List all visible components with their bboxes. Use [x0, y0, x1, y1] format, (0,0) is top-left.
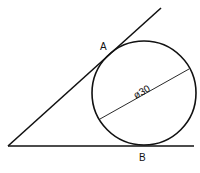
diameter-label: ø30	[131, 82, 152, 100]
tangent-circle-diagram: ø30 A B	[0, 0, 200, 173]
point-a-label: A	[100, 41, 107, 52]
point-b-label: B	[139, 152, 146, 163]
slanted-line	[8, 8, 161, 146]
